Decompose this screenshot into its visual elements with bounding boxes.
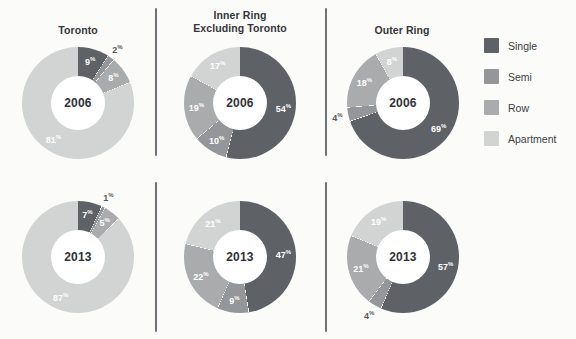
slice-label-single-toronto-2013: 7% <box>82 209 92 220</box>
slice-label-semi-toronto-2013: 1% <box>103 192 113 203</box>
legend-swatch-icon <box>484 100 499 115</box>
slice-label-semi-toronto-2006: 2% <box>112 43 122 54</box>
slice-label-apartment-inner-2013: 21% <box>205 217 220 228</box>
donut-center: 2013 <box>51 230 105 284</box>
slice-label-single-outer-2006: 69% <box>431 123 446 134</box>
slice-label-apartment-outer-2006: 8% <box>387 55 397 66</box>
slice-label-single-inner-2006: 54% <box>276 103 291 114</box>
panel-divider <box>155 182 157 332</box>
legend-item-apartment[interactable]: Apartment <box>484 123 576 154</box>
slice-label-semi-outer-2013: 4% <box>364 309 374 320</box>
slice-label-row-toronto-2013: 5% <box>100 217 110 228</box>
donut-year-label: 2013 <box>226 250 254 264</box>
chart-legend: SingleSemiRowApartment <box>484 30 576 154</box>
chart-canvas: Toronto Inner Ring Excluding Toronto Out… <box>0 0 576 339</box>
slice-label-row-inner-2006: 19% <box>189 102 204 113</box>
legend-item-label: Single <box>508 40 537 52</box>
slice-label-row-toronto-2006: 8% <box>108 72 118 83</box>
panel-title-line: Outer Ring <box>332 24 472 37</box>
panel-title-inner-ring: Inner Ring Excluding Toronto <box>162 9 318 35</box>
slice-label-row-outer-2006: 18% <box>357 77 372 88</box>
donut-chart-toronto-2006: 2006 <box>22 47 134 159</box>
slice-label-apartment-inner-2006: 17% <box>210 60 225 71</box>
slice-label-single-toronto-2006: 9% <box>85 56 95 67</box>
legend-item-label: Apartment <box>508 133 556 145</box>
panel-divider <box>155 8 157 156</box>
panel-title-line: Toronto <box>8 24 148 37</box>
donut-year-label: 2006 <box>389 96 417 110</box>
slice-label-semi-inner-2006: 10% <box>209 134 224 145</box>
donut-center: 2006 <box>376 76 430 130</box>
donut-year-label: 2006 <box>64 96 92 110</box>
donut-year-label: 2013 <box>389 250 417 264</box>
panel-title-outer-ring: Outer Ring <box>332 24 472 37</box>
legend-swatch-icon <box>484 38 499 53</box>
slice-label-row-inner-2013: 22% <box>193 271 208 282</box>
slice-label-single-inner-2013: 47% <box>276 248 291 259</box>
donut-center: 2013 <box>376 230 430 284</box>
legend-item-semi[interactable]: Semi <box>484 61 576 92</box>
slice-label-semi-outer-2006: 4% <box>332 111 342 122</box>
legend-swatch-icon <box>484 69 499 84</box>
donut-chart-outer-2013: 2013 <box>347 201 459 313</box>
legend-item-single[interactable]: Single <box>484 30 576 61</box>
panel-divider <box>325 8 327 156</box>
slice-label-single-outer-2013: 57% <box>438 260 453 271</box>
slice-label-apartment-toronto-2006: 81% <box>46 134 61 145</box>
legend-item-label: Semi <box>508 71 532 83</box>
panel-title-toronto: Toronto <box>8 24 148 37</box>
donut-center: 2013 <box>213 230 267 284</box>
panel-title-line: Inner Ring <box>162 9 318 22</box>
slice-label-apartment-outer-2013: 19% <box>371 215 386 226</box>
slice-label-row-outer-2013: 21% <box>353 263 368 274</box>
panel-title-line: Excluding Toronto <box>162 22 318 35</box>
donut-center: 2006 <box>213 76 267 130</box>
donut-chart-toronto-2013: 2013 <box>22 201 134 313</box>
donut-chart-outer-2006: 2006 <box>347 47 459 159</box>
legend-swatch-icon <box>484 131 499 146</box>
slice-label-semi-inner-2013: 9% <box>229 295 239 306</box>
legend-item-label: Row <box>508 102 529 114</box>
panel-divider <box>325 182 327 332</box>
legend-item-row[interactable]: Row <box>484 92 576 123</box>
donut-year-label: 2006 <box>226 96 254 110</box>
donut-year-label: 2013 <box>64 250 92 264</box>
slice-label-apartment-toronto-2013: 87% <box>53 292 68 303</box>
donut-center: 2006 <box>51 76 105 130</box>
